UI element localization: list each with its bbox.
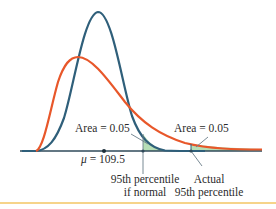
p95-actual-marker	[189, 149, 192, 152]
p95-normal-label: 95th percentile if normal	[111, 173, 180, 199]
skewed-curve	[36, 57, 262, 151]
area-label-actual: Area = 0.05	[174, 122, 229, 135]
mean-label: μ = 109.5	[81, 153, 125, 166]
mean-value: = 109.5	[87, 153, 125, 165]
p95-actual-line2: 95th percentile	[175, 186, 244, 199]
p95-actual-label: Actual 95th percentile	[175, 173, 244, 199]
p95-actual-pointer	[191, 151, 202, 166]
p95-normal-line1: 95th percentile	[111, 173, 180, 186]
bottom-divider	[0, 202, 276, 204]
p95-normal-line2: if normal	[111, 186, 180, 199]
area-label-normal: Area = 0.05	[75, 122, 130, 135]
p95-normal-marker	[141, 149, 144, 152]
p95-actual-line1: Actual	[175, 173, 244, 186]
